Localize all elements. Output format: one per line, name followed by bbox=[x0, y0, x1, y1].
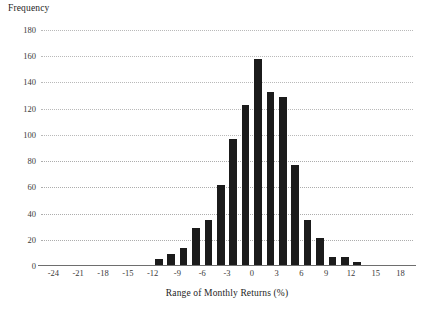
y-tick-label: 120 bbox=[23, 104, 36, 114]
y-tick-label: 160 bbox=[23, 51, 36, 61]
x-axis-line bbox=[38, 265, 416, 266]
y-tick-label: 180 bbox=[23, 25, 36, 35]
x-tick-label: -12 bbox=[147, 268, 158, 278]
bar bbox=[291, 165, 299, 266]
bar bbox=[192, 228, 200, 266]
bar bbox=[242, 105, 250, 266]
y-axis-title: Frequency bbox=[8, 3, 49, 13]
bar bbox=[304, 220, 312, 266]
bars-series bbox=[41, 30, 413, 266]
x-tick-label: -15 bbox=[122, 268, 133, 278]
x-tick-label: 6 bbox=[299, 268, 303, 278]
x-tick-label: 0 bbox=[250, 268, 254, 278]
y-tick-label: 80 bbox=[28, 156, 37, 166]
y-tick-label: 100 bbox=[23, 130, 36, 140]
x-tick-label: 15 bbox=[372, 268, 381, 278]
x-axis-ticks: -24-21-18-15-12-9-6-30369121518 bbox=[41, 268, 413, 282]
bar bbox=[205, 220, 213, 266]
x-tick-label: 12 bbox=[347, 268, 356, 278]
bar bbox=[229, 139, 237, 266]
x-tick-label: -18 bbox=[97, 268, 108, 278]
x-tick-label: -3 bbox=[223, 268, 230, 278]
bar bbox=[267, 92, 275, 266]
y-tick-label: 60 bbox=[28, 182, 37, 192]
y-tick-label: 140 bbox=[23, 77, 36, 87]
x-tick-label: -24 bbox=[48, 268, 59, 278]
x-tick-label: -9 bbox=[174, 268, 181, 278]
y-tick-label: 20 bbox=[28, 235, 37, 245]
x-tick-label: 9 bbox=[324, 268, 328, 278]
x-tick-label: -21 bbox=[73, 268, 84, 278]
histogram-chart: Frequency 180160140120100806040200 -24-2… bbox=[0, 0, 424, 310]
x-tick-label: 3 bbox=[274, 268, 278, 278]
bar bbox=[217, 185, 225, 266]
bar bbox=[279, 97, 287, 266]
bar bbox=[180, 248, 188, 266]
x-axis-title: Range of Monthly Returns (%) bbox=[41, 288, 413, 298]
bar bbox=[316, 238, 324, 266]
x-tick-label: -6 bbox=[199, 268, 206, 278]
plot-area: 180160140120100806040200 bbox=[41, 30, 413, 266]
y-tick-label: 40 bbox=[28, 209, 37, 219]
y-tick-label: 0 bbox=[32, 261, 36, 271]
x-tick-label: 18 bbox=[396, 268, 405, 278]
bar bbox=[254, 59, 262, 266]
